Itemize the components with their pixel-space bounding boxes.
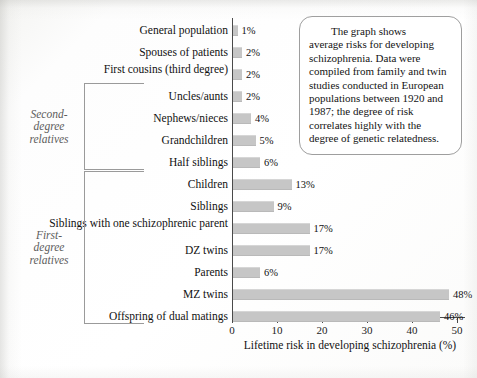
bar-value-label: 4% — [255, 113, 269, 124]
bar — [233, 201, 274, 212]
bar-value-label: 1% — [242, 25, 256, 36]
bar — [233, 135, 256, 146]
bar-row: Children13% — [0, 174, 477, 196]
bar — [233, 267, 260, 278]
bar — [233, 223, 310, 234]
bar-value-label: 48% — [453, 289, 472, 300]
caption-line-2: average risks for developing schizophren… — [309, 38, 452, 145]
bar-row: Siblings9% — [0, 196, 477, 218]
bar — [233, 311, 440, 322]
x-axis-title: Lifetime risk in developing schizophreni… — [232, 339, 468, 351]
bar-value-label: 17% — [314, 223, 333, 234]
bar — [233, 113, 251, 124]
bar-value-label: 13% — [296, 179, 315, 190]
bar-row: Offspring of dual matings46% — [0, 306, 477, 328]
bar — [233, 47, 242, 58]
group-bracket — [84, 171, 144, 324]
caption-line-1: The graph shows — [309, 25, 452, 38]
bar-value-label: 9% — [278, 201, 292, 212]
bar — [233, 179, 292, 190]
bar-value-label: 6% — [264, 157, 278, 168]
category-label: General population — [13, 25, 228, 37]
caption-box: The graph shows average risks for develo… — [299, 16, 462, 155]
bar — [233, 245, 310, 256]
bar-value-label: 5% — [260, 135, 274, 146]
bar — [233, 157, 260, 168]
group-label: Second- degree relatives — [18, 108, 80, 146]
bar-value-label: 17% — [314, 245, 333, 256]
category-label: Spouses of patients — [13, 47, 228, 59]
bar-value-label: 6% — [264, 267, 278, 278]
bar-row: Half siblings6% — [0, 152, 477, 174]
bar-value-label: 2% — [246, 91, 260, 102]
group-label: First- degree relatives — [18, 229, 80, 267]
group-bracket — [84, 83, 144, 170]
bar — [233, 91, 242, 102]
bar-value-label: 2% — [246, 69, 260, 80]
bar — [233, 69, 242, 80]
bar — [233, 289, 449, 300]
category-label: First cousins (third degree) — [13, 64, 228, 75]
bar-value-label: 2% — [246, 47, 260, 58]
bar-row: MZ twins48% — [0, 284, 477, 306]
chart-page: 01020304050 Lifetime risk in developing … — [0, 0, 477, 378]
bar — [233, 25, 238, 36]
bar-value-label: 46% — [444, 311, 463, 322]
